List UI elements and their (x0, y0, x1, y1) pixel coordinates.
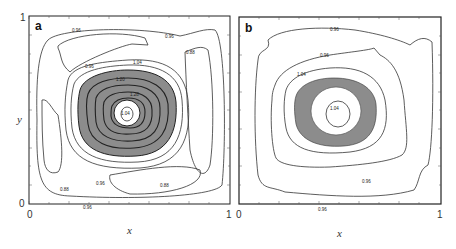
panel-a: 0.96 0.96 0.88 0.96 1.04 1.20 1.28 1.04 … (16, 12, 232, 236)
contour-label: 1.04 (297, 72, 306, 77)
contour-label: 0.88 (186, 50, 195, 55)
contour-label: 1.20 (116, 77, 125, 82)
contour-label: 1.04 (133, 60, 142, 65)
contour-label: 0.96 (72, 28, 81, 33)
contour-label: 0.96 (318, 207, 327, 212)
panel-b: 0.96 0.96 1.04 1.04 0.96 0.96 b 0 1 x (236, 17, 443, 239)
contour-label: 1.04 (330, 106, 339, 111)
contour-label: 0.96 (330, 27, 339, 32)
contour-label: 0.96 (96, 181, 105, 186)
x-tick-0: 0 (236, 209, 242, 220)
x-axis-label: x (126, 224, 132, 236)
contour-label: 0.96 (362, 179, 371, 184)
contour-label: 0.96 (320, 53, 329, 58)
contour-label: 0.96 (85, 64, 94, 69)
y-tick-0: 0 (19, 198, 25, 209)
figure: 0.96 0.96 0.88 0.96 1.04 1.20 1.28 1.04 … (0, 0, 456, 249)
contour-label: 1.28 (130, 92, 139, 97)
x-tick-1: 1 (226, 209, 232, 220)
contour-label: 0.88 (60, 187, 69, 192)
x-axis-label: x (336, 227, 342, 239)
y-axis-label: y (16, 113, 22, 125)
x-tick-1: 1 (437, 209, 443, 220)
contour-label: 0.96 (83, 205, 92, 210)
panel-label-b: b (245, 21, 252, 35)
panel-label-a: a (35, 19, 42, 33)
contour-label: 0.88 (160, 183, 169, 188)
contour-label: 0.96 (165, 34, 174, 39)
contour-label: 1.04 (121, 111, 130, 116)
y-tick-1: 1 (20, 12, 26, 23)
x-tick-0: 0 (27, 209, 33, 220)
